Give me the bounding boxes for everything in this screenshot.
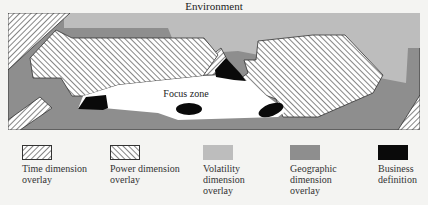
environment-title: Environment	[0, 0, 428, 13]
volatility-swatch-icon	[203, 145, 233, 160]
legend-label-volatility: Volatility dimension overlay	[203, 163, 245, 196]
legend-label-power: Power dimension overlay	[110, 163, 180, 185]
legend-item-time: Time dimension overlay	[22, 145, 87, 185]
environment-map: Focus zone	[8, 13, 420, 130]
legend-label-geographic: Geographic dimension overlay	[290, 163, 337, 196]
geographic-swatch-icon	[290, 145, 320, 160]
legend: Time dimension overlay Power dimension o…	[0, 145, 428, 205]
business-swatch-icon	[378, 145, 408, 160]
time-hatch-swatch-icon	[22, 145, 52, 160]
legend-item-business: Business definition	[378, 145, 417, 185]
legend-item-power: Power dimension overlay	[110, 145, 180, 185]
legend-label-business: Business definition	[378, 163, 417, 185]
legend-item-geographic: Geographic dimension overlay	[290, 145, 337, 196]
environment-diagram: Focus zone	[8, 13, 420, 130]
legend-label-time: Time dimension overlay	[22, 163, 87, 185]
business-region-blob-center	[176, 103, 202, 115]
focus-zone-label: Focus zone	[163, 88, 209, 99]
power-hatch-swatch-icon	[110, 145, 140, 160]
legend-item-volatility: Volatility dimension overlay	[203, 145, 245, 196]
